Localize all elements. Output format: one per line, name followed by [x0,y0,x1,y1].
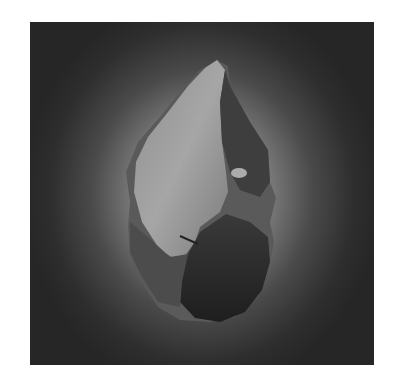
photo-frame [30,22,374,365]
stone-highlight [231,168,247,178]
hand-axe-illustration [30,22,374,365]
